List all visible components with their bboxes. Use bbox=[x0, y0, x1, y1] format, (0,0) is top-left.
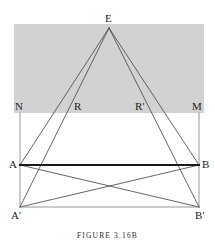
vertex-label-rp: R' bbox=[135, 101, 145, 112]
vertex-label-b: B bbox=[202, 159, 209, 170]
vertex-label-n: N bbox=[15, 101, 23, 112]
geometry-diagram-canvas bbox=[0, 0, 215, 250]
shaded-band-region bbox=[14, 24, 204, 113]
vertex-label-a: A bbox=[9, 159, 17, 170]
vertex-label-m: M bbox=[192, 101, 202, 112]
vertex-label-r: R bbox=[74, 101, 81, 112]
figure-3-16b: ENRR'MABA'B' FIGURE 3.16B bbox=[0, 0, 215, 250]
figure-caption: FIGURE 3.16B bbox=[0, 231, 215, 240]
vertex-label-e: E bbox=[105, 13, 112, 24]
vertex-label-ap: A' bbox=[11, 210, 21, 221]
vertex-label-bp: B' bbox=[195, 210, 205, 221]
